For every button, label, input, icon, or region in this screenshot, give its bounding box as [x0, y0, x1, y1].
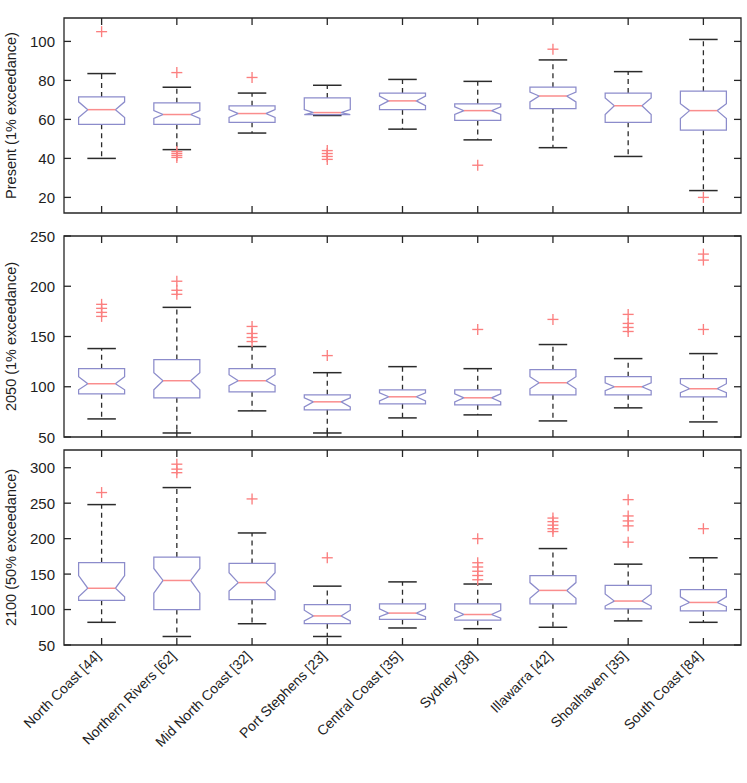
y-tick-label: 40: [38, 150, 55, 167]
y-tick-label: 250: [30, 228, 55, 245]
box: [455, 604, 501, 620]
x-category-label-6: Sydney [38]: [416, 648, 480, 712]
boxplot-2: [154, 459, 200, 637]
box: [304, 605, 350, 624]
boxplot-8: [605, 72, 651, 157]
y-tick-label: 50: [38, 637, 55, 654]
box: [680, 590, 726, 611]
y-axis-label: Present (1% exceedance): [3, 32, 19, 199]
boxplot-3: [229, 321, 275, 411]
y-tick-label: 200: [30, 530, 55, 547]
x-category-label-5: Central Coast [35]: [314, 648, 405, 739]
panel-3: 501001502002503002100 (50% exceedance): [3, 450, 741, 654]
boxplot-1: [79, 487, 125, 622]
y-tick-label: 20: [38, 189, 55, 206]
panel-1: 20406080100Present (1% exceedance): [3, 18, 741, 213]
box: [154, 557, 200, 609]
y-tick-label: 250: [30, 495, 55, 512]
boxplot-2: [154, 67, 200, 163]
box: [455, 104, 501, 121]
boxplot-2: [154, 276, 200, 433]
y-axis-label: 2100 (50% exceedance): [3, 469, 19, 626]
boxplot-3: [229, 493, 275, 623]
boxplot-6: [455, 324, 501, 415]
boxplot-5: [380, 79, 426, 129]
boxplot-4: [304, 350, 350, 433]
box: [530, 87, 576, 108]
y-tick-label: 100: [30, 33, 55, 50]
boxplot-5: [380, 582, 426, 628]
boxplot-3: [229, 72, 275, 133]
box: [154, 103, 200, 124]
box: [605, 585, 651, 608]
boxplot-6: [455, 81, 501, 170]
box: [380, 604, 426, 620]
boxplot-1: [79, 26, 125, 158]
boxplot-5: [380, 367, 426, 418]
boxplot-9: [680, 39, 726, 202]
panel-frame: [64, 450, 741, 645]
box: [154, 360, 200, 398]
boxplot-4: [304, 552, 350, 636]
y-tick-label: 150: [30, 566, 55, 583]
box: [605, 93, 651, 122]
boxplot-1: [79, 299, 125, 419]
box: [79, 563, 125, 601]
box: [229, 563, 275, 599]
boxplot-7: [530, 44, 576, 148]
box: [605, 377, 651, 395]
y-axis-label: 2050 (1% exceedance): [3, 262, 19, 411]
boxplot-figure: 20406080100Present (1% exceedance)501001…: [0, 0, 747, 783]
y-tick-label: 200: [30, 278, 55, 295]
boxplot-4: [304, 85, 350, 165]
x-category-label-9: South Coast [84]: [620, 648, 705, 733]
y-tick-label: 60: [38, 111, 55, 128]
y-tick-label: 80: [38, 72, 55, 89]
panel-2: 501001502002502050 (1% exceedance): [3, 228, 741, 446]
y-tick-label: 300: [30, 459, 55, 476]
y-tick-label: 150: [30, 328, 55, 345]
boxplot-9: [680, 249, 726, 422]
y-tick-label: 100: [30, 601, 55, 618]
box: [79, 369, 125, 394]
boxplot-7: [530, 513, 576, 628]
boxplot-8: [605, 309, 651, 408]
box: [79, 97, 125, 124]
x-category-label-1: North Coast [44]: [20, 648, 103, 731]
y-tick-label: 50: [38, 429, 55, 446]
box: [680, 379, 726, 397]
boxplot-7: [530, 314, 576, 421]
boxplot-8: [605, 494, 651, 621]
boxplot-6: [455, 533, 501, 629]
chart-canvas: 20406080100Present (1% exceedance)501001…: [0, 0, 747, 783]
boxplot-9: [680, 523, 726, 622]
x-category-label-7: Illawarra [42]: [487, 648, 555, 716]
x-category-label-8: Shoalhaven [35]: [547, 648, 630, 731]
panel-frame: [64, 18, 741, 213]
y-tick-label: 100: [30, 378, 55, 395]
